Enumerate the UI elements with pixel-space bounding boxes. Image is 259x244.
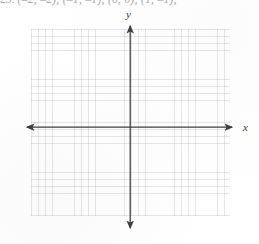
axes-group [0,0,259,244]
coordinate-plane-figure: y x [0,0,259,244]
y-axis-label: y [126,9,131,20]
x-axis-label: x [243,122,248,133]
